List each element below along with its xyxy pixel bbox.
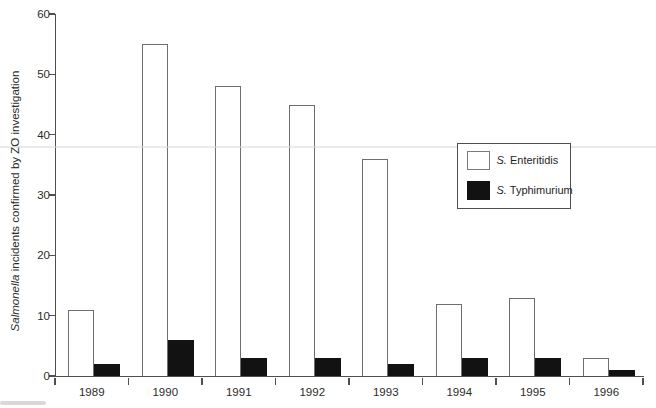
- bar-typhimurium-1994: [462, 358, 488, 376]
- y-tick-label: 10: [16, 309, 50, 323]
- bar-typhimurium-1995: [535, 358, 561, 376]
- x-tick: [422, 378, 423, 385]
- x-tick: [201, 378, 202, 385]
- y-tick-label: 0: [16, 369, 50, 383]
- x-tick: [128, 378, 129, 385]
- legend-item-typhimurium: S. Typhimurium: [467, 181, 571, 200]
- bar-typhimurium-1993: [388, 364, 414, 376]
- x-category-label: 1996: [570, 385, 644, 399]
- legend-label-typhimurium-genus: S.: [497, 184, 507, 196]
- legend-label-typhimurium-species: Typhimurium: [507, 184, 573, 196]
- x-category-label: 1995: [496, 385, 570, 399]
- y-axis-title-italic: Salmonella: [9, 275, 21, 332]
- legend-label-typhimurium: S. Typhimurium: [497, 184, 573, 197]
- y-tick-label: 60: [16, 7, 50, 21]
- bar-enteritidis-1989: [68, 310, 94, 376]
- x-category-label: 1990: [129, 385, 203, 399]
- x-category-label: 1989: [55, 385, 129, 399]
- x-tick: [569, 378, 570, 385]
- y-axis-title-rest: incidents confirmed by ZO investigation: [9, 71, 21, 275]
- legend-swatch-typhimurium: [467, 181, 490, 200]
- bar-typhimurium-1991: [241, 358, 267, 376]
- legend-label-enteritidis-species: Enteritidis: [507, 154, 558, 166]
- x-tick: [348, 378, 349, 385]
- legend-label-enteritidis: S. Enteritidis: [497, 154, 559, 167]
- y-tick-label: 20: [16, 248, 50, 262]
- x-category-label: 1991: [202, 385, 276, 399]
- y-tick-label: 40: [16, 128, 50, 142]
- x-category-label: 1993: [349, 385, 423, 399]
- bar-enteritidis-1991: [215, 86, 241, 376]
- x-category-label: 1994: [423, 385, 497, 399]
- bar-enteritidis-1996: [583, 358, 609, 376]
- bar-typhimurium-1992: [315, 358, 341, 376]
- bar-typhimurium-1990: [168, 340, 194, 376]
- x-category-label: 1992: [276, 385, 350, 399]
- figure: Salmonella incidents confirmed by ZO inv…: [0, 0, 656, 408]
- x-tick: [495, 378, 496, 385]
- bar-enteritidis-1994: [436, 304, 462, 376]
- bar-enteritidis-1993: [362, 159, 388, 376]
- bar-enteritidis-1990: [142, 44, 168, 376]
- legend-swatch-enteritidis: [467, 151, 490, 170]
- legend-label-enteritidis-genus: S.: [497, 154, 507, 166]
- legend-item-enteritidis: S. Enteritidis: [467, 151, 571, 170]
- x-tick: [642, 378, 643, 385]
- legend: S. Enteritidis S. Typhimurium: [457, 143, 571, 209]
- bar-enteritidis-1995: [509, 298, 535, 376]
- bar-typhimurium-1996: [609, 370, 635, 376]
- x-tick: [54, 378, 55, 385]
- x-tick: [275, 378, 276, 385]
- scan-artifact-smudge: [0, 401, 46, 405]
- y-tick-label: 50: [16, 67, 50, 81]
- bar-typhimurium-1989: [94, 364, 120, 376]
- y-tick-label: 30: [16, 188, 50, 202]
